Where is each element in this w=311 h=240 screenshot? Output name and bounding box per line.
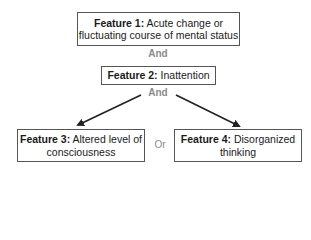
feature-3-box: Feature 3: Altered level of consciousnes… [17, 129, 145, 162]
feature-4-description: Disorganized thinking [220, 133, 295, 158]
or-connector: Or [150, 139, 170, 150]
feature-3-text: Feature 3: Altered level of consciousnes… [18, 133, 144, 158]
arrow-to-feature-3 [78, 95, 141, 125]
feature-4-box: Feature 4: Disorganized thinking [174, 129, 302, 162]
feature-4-label: Feature 4: [181, 133, 231, 145]
feature-4-text: Feature 4: Disorganized thinking [175, 133, 301, 158]
arrow-to-feature-4 [176, 95, 239, 126]
feature-3-label: Feature 3: [20, 133, 70, 145]
